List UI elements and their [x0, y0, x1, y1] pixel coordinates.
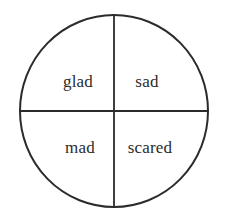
- quadrant-label-glad: glad: [63, 73, 93, 90]
- quadrant-label-mad: mad: [65, 139, 95, 156]
- circle-diagram-graphic: [0, 0, 234, 222]
- quadrant-label-sad: sad: [135, 73, 158, 90]
- feelings-circle-diagram: glad sad mad scared: [0, 0, 234, 222]
- quadrant-label-scared: scared: [128, 139, 173, 156]
